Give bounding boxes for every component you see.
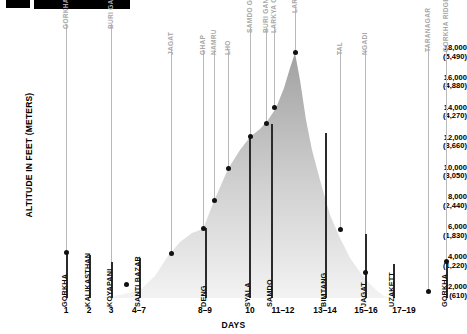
profile-area — [52, 0, 467, 334]
data-point-taranagar — [426, 289, 431, 294]
upper-marker-label: GHAP — [199, 35, 206, 55]
data-point-larkya-camp — [272, 105, 277, 110]
upper-marker-label: LHO — [224, 40, 231, 55]
leader-line-4 — [214, 50, 215, 200]
data-point-larkya-la — [293, 50, 298, 55]
lower-marker-label: KOYAPANI — [105, 269, 114, 307]
plot-area: GORKHA DURBARBURI GANDAKIJAGATGHAPNAMRUL… — [52, 0, 467, 334]
upper-marker-label: SAMDO GROUP — [246, 0, 253, 33]
upper-marker-label: LARKYA CAMP — [270, 0, 277, 33]
lower-marker-label: SAMDO — [265, 279, 274, 307]
upper-marker-label: NAMRU — [210, 29, 217, 55]
stage-stem-6 — [271, 124, 273, 298]
data-point-gorkha — [64, 250, 69, 255]
upper-marker-label: BURI GANDAKI — [262, 0, 269, 33]
data-point-gorkha-ridge — [444, 259, 449, 264]
data-point-samdo-group — [248, 134, 253, 139]
day-label-2: 3 — [109, 305, 114, 315]
leader-line-1 — [111, 24, 112, 284]
data-point-lho — [226, 166, 231, 171]
leader-line-8 — [274, 28, 275, 107]
leader-line-3 — [203, 50, 204, 228]
leader-line-9 — [295, 8, 296, 52]
lower-marker-label: SYALA — [243, 282, 252, 307]
data-point-namru — [212, 198, 217, 203]
upper-marker-label: NGADI — [361, 33, 368, 56]
header-bar-left — [6, 0, 30, 8]
upper-marker-label: TAL — [336, 42, 343, 55]
leader-line-2 — [171, 50, 172, 253]
data-point-tal — [338, 227, 343, 232]
lower-marker-label: GORKHA — [440, 274, 449, 307]
upper-marker-label: BURI GANDAKI — [107, 0, 114, 29]
lower-marker-label: BIMTANG — [319, 273, 328, 307]
lower-marker-label: UZAKETT — [387, 272, 396, 307]
leader-line-5 — [228, 50, 229, 168]
altitude-profile-chart: ALTITUDE IN FEET (METERS) 18,000(5,490)1… — [0, 0, 467, 334]
leader-line-12 — [428, 47, 429, 291]
altitude-profile-shape — [100, 53, 392, 298]
day-label-7: 13–14 — [313, 305, 336, 315]
leader-line-13 — [446, 47, 447, 261]
leader-line-0 — [66, 24, 67, 252]
leader-line-10 — [340, 50, 341, 229]
data-point-santi-bazar — [124, 282, 129, 287]
day-label-6: 11–12 — [272, 305, 295, 315]
day-label-5: 10 — [245, 305, 254, 315]
upper-marker-label: TARANAGAR — [424, 8, 431, 52]
leader-line-6 — [250, 28, 251, 136]
upper-marker-label: LARKYA LA — [291, 0, 298, 13]
lower-marker-label: JAGAT — [359, 282, 368, 307]
data-point-ngadi — [363, 270, 368, 275]
upper-marker-label: GORKHA DURBAR — [62, 0, 69, 29]
upper-marker-label: GORKHA RIDGE — [442, 0, 449, 52]
lower-marker-label: SANTI BAZAR — [133, 256, 142, 307]
upper-marker-label: JAGAT — [167, 32, 174, 55]
day-label-3: 4–7 — [132, 305, 146, 315]
data-point-ghap — [201, 226, 206, 231]
leader-line-7 — [266, 28, 267, 123]
day-label-1: 2 — [87, 305, 92, 315]
data-point-jagat — [169, 251, 174, 256]
y-axis-title: ALTITUDE IN FEET (METERS) — [24, 80, 34, 230]
day-label-4: 8–9 — [198, 305, 212, 315]
lower-marker-label: KALIKASTHAN — [83, 253, 92, 307]
stage-stem-5 — [249, 137, 251, 298]
lower-marker-label: DENG — [199, 285, 208, 307]
data-point-buri-gandaki — [264, 121, 269, 126]
day-label-8: 15–16 — [354, 305, 377, 315]
lower-marker-label: GORKHA — [60, 274, 69, 307]
x-axis-title: DAYS — [0, 320, 467, 330]
day-label-9: 17–19 — [392, 305, 415, 315]
day-label-0: 1 — [64, 305, 69, 315]
